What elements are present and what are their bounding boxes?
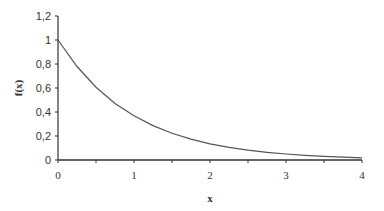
y-tick-label: 1: [45, 34, 51, 46]
y-tick-label: 0: [45, 154, 51, 166]
x-tick-label: 0: [55, 169, 61, 181]
chart: 00,20,40,60,811,2 01234 x f(x): [0, 0, 384, 211]
x-tick-label: 3: [283, 169, 289, 181]
x-axis-label: x: [207, 192, 213, 204]
x-tick-label: 1: [131, 169, 137, 181]
y-axis-label: f(x): [12, 79, 25, 96]
curve-line: [58, 40, 362, 158]
y-tick-label: 0,6: [36, 82, 51, 94]
y-axis: 00,20,40,60,811,2: [36, 10, 58, 166]
y-tick-label: 0,4: [36, 106, 51, 118]
y-tick-label: 0,8: [36, 58, 51, 70]
y-tick-label: 1,2: [36, 10, 51, 22]
x-axis: 01234: [55, 160, 365, 181]
x-tick-label: 2: [207, 169, 213, 181]
y-tick-label: 0,2: [36, 130, 51, 142]
x-tick-label: 4: [359, 169, 365, 181]
